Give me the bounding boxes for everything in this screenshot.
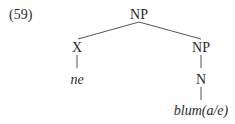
node-x: X (72, 41, 82, 55)
node-root-np: NP (130, 8, 148, 22)
branch-np-to-np (139, 22, 201, 39)
example-number: (59) (9, 8, 32, 22)
branch-np-to-x (78, 22, 139, 39)
leaf-ne: ne (70, 73, 83, 87)
leaf-blum: blum(a/e) (174, 104, 228, 118)
node-np: NP (192, 41, 210, 55)
node-n: N (196, 73, 206, 87)
